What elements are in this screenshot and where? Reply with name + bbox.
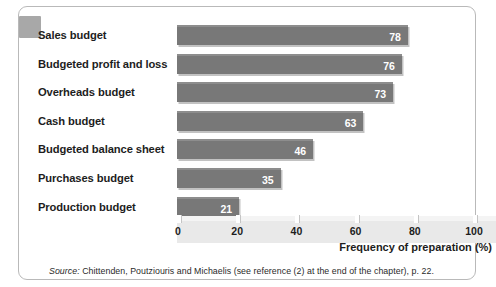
x-axis-tick-mark — [414, 215, 419, 223]
source-note: Source: Chittenden, Poutziouris and Mich… — [49, 266, 457, 276]
x-axis-tick-label: 60 — [350, 225, 362, 237]
bar: 76 — [177, 54, 402, 74]
bar-row: Cash budget63 — [38, 107, 496, 135]
x-axis-tick-mark — [295, 215, 300, 223]
bar-value-label: 63 — [345, 113, 357, 133]
x-axis-tick-mark — [473, 215, 478, 223]
category-label: Production budget — [38, 193, 169, 221]
bar-value-label: 46 — [294, 141, 306, 161]
bar-value-label: 78 — [389, 27, 401, 47]
x-axis-tick-label: 20 — [231, 225, 243, 237]
bar: 35 — [177, 168, 281, 188]
x-axis-title: Frequency of preparation (%) — [177, 241, 492, 253]
bar-value-label: 35 — [262, 170, 274, 190]
bar-chart: Sales budget78Budgeted profit and loss76… — [38, 13, 496, 256]
bar-row: Budgeted balance sheet46 — [38, 135, 496, 163]
bar-track: 63 — [177, 107, 496, 135]
bar-track: 35 — [177, 164, 496, 192]
category-label: Overheads budget — [38, 78, 169, 106]
x-axis-tick-mark — [236, 215, 241, 223]
x-axis-tick-mark — [177, 215, 182, 223]
bar: 73 — [177, 82, 393, 102]
source-text: Chittenden, Poutziouris and Michaelis (s… — [80, 266, 434, 276]
bar-row: Sales budget78 — [38, 21, 496, 49]
x-axis: 020406080100 — [177, 221, 496, 243]
bar-track: 78 — [177, 21, 496, 49]
footnote-divider — [38, 257, 494, 258]
bar: 63 — [177, 111, 363, 131]
bar: 21 — [177, 197, 239, 217]
category-label: Cash budget — [38, 107, 169, 135]
bar-row: Overheads budget73 — [38, 78, 496, 106]
bar-row: Budgeted profit and loss76 — [38, 50, 496, 78]
category-label: Purchases budget — [38, 164, 169, 192]
bar-track: 46 — [177, 135, 496, 163]
x-axis-tick-label: 100 — [465, 225, 483, 237]
figure-card: Sales budget78Budgeted profit and loss76… — [18, 6, 476, 280]
bar-value-label: 73 — [374, 84, 386, 104]
source-keyword: Source: — [49, 266, 80, 276]
x-axis-tick-label: 80 — [409, 225, 421, 237]
x-axis-tick-label: 0 — [175, 225, 181, 237]
bar-value-label: 76 — [383, 56, 395, 76]
bar-track: 73 — [177, 78, 496, 106]
bar: 46 — [177, 139, 313, 159]
category-label: Budgeted balance sheet — [38, 135, 169, 163]
bar-track: 76 — [177, 50, 496, 78]
category-label: Budgeted profit and loss — [38, 50, 169, 78]
category-label: Sales budget — [38, 21, 169, 49]
x-axis-tick-mark — [355, 215, 360, 223]
x-axis-tick-label: 40 — [291, 225, 303, 237]
bar-row: Purchases budget35 — [38, 164, 496, 192]
bar: 78 — [177, 25, 408, 45]
